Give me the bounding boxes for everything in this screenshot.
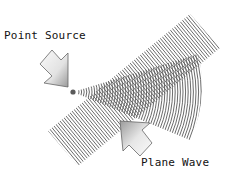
diagram-canvas: Point Source Plane Wave bbox=[0, 0, 238, 179]
diagram-svg bbox=[0, 0, 238, 179]
point-source-dot bbox=[70, 89, 75, 94]
plane-wave-arrow-icon bbox=[120, 121, 152, 156]
point-source-label: Point Source bbox=[4, 29, 86, 42]
plane-wave-label: Plane Wave bbox=[141, 156, 209, 169]
spherical-wavefronts bbox=[0, 0, 204, 179]
point-source-arrow-icon bbox=[40, 50, 68, 87]
